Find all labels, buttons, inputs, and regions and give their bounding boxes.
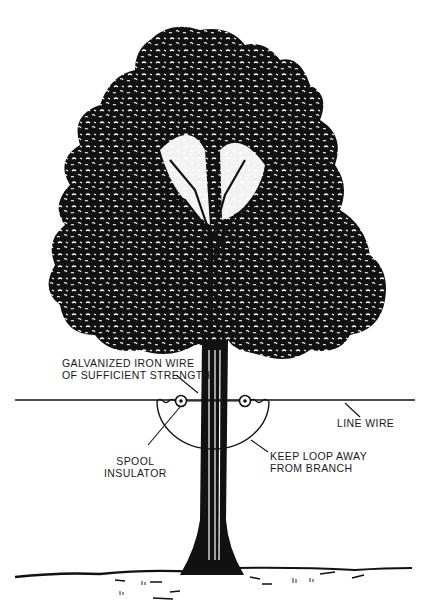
spool-insulator-label-line2: INSULATOR (104, 467, 167, 479)
spool-insulator-right (240, 396, 251, 407)
spool-insulator-left (176, 396, 187, 407)
tree-wire-diagram (0, 0, 430, 615)
tree-canopy (49, 27, 386, 359)
galvanized-wire-label: GALVANIZED IRON WIRE OF SUFFICIENT STREN… (62, 357, 211, 381)
galvanized-wire-label-line2: OF SUFFICIENT STRENGTH (62, 369, 211, 381)
keep-loop-label: KEEP LOOP AWAY FROM BRANCH (270, 450, 367, 474)
keep-loop-label-line2: FROM BRANCH (270, 462, 367, 474)
galvanized-wire-label-line1: GALVANIZED IRON WIRE (62, 357, 211, 369)
spool-insulator-label-line1: SPOOL (104, 455, 167, 467)
line-wire-label-text: LINE WIRE (337, 417, 394, 429)
line-wire-label: LINE WIRE (337, 417, 394, 429)
spool-insulator-label: SPOOL INSULATOR (104, 455, 167, 479)
keep-loop-label-line1: KEEP LOOP AWAY (270, 450, 367, 462)
